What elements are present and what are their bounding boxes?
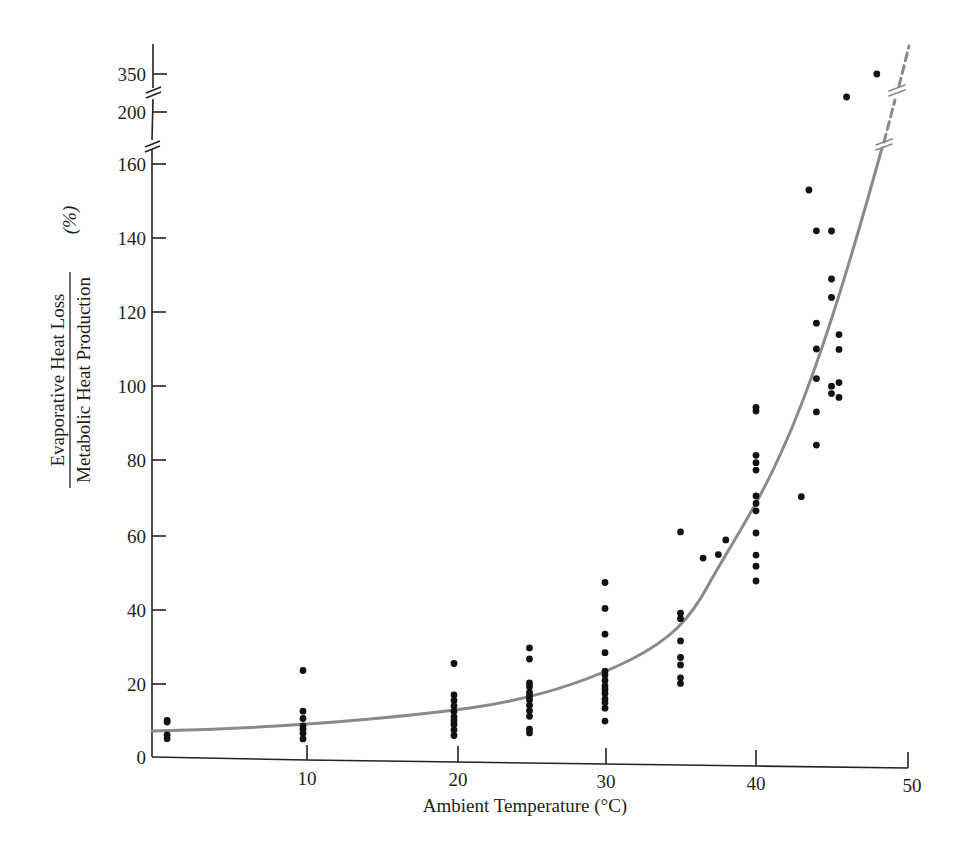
svg-text:100: 100 bbox=[118, 376, 147, 397]
fitted-curve bbox=[152, 46, 909, 731]
data-point bbox=[700, 555, 707, 562]
data-point bbox=[836, 346, 843, 353]
data-point bbox=[677, 654, 684, 661]
data-point bbox=[753, 493, 760, 500]
data-point bbox=[813, 346, 820, 353]
svg-text:80: 80 bbox=[127, 450, 146, 471]
data-point bbox=[722, 537, 729, 544]
data-point bbox=[813, 227, 820, 234]
data-point bbox=[836, 394, 843, 401]
data-point bbox=[677, 615, 684, 622]
data-points bbox=[164, 71, 880, 743]
data-point bbox=[451, 660, 458, 667]
data-point bbox=[798, 493, 805, 500]
data-point bbox=[753, 552, 760, 559]
data-point bbox=[677, 638, 684, 645]
data-point bbox=[602, 579, 609, 586]
svg-text:50: 50 bbox=[903, 775, 922, 796]
data-point bbox=[836, 379, 843, 386]
data-point bbox=[526, 730, 533, 737]
y-axis-unit: (%) bbox=[59, 206, 81, 234]
svg-text:40: 40 bbox=[747, 773, 766, 794]
svg-text:20: 20 bbox=[127, 674, 146, 695]
data-point bbox=[602, 631, 609, 638]
y-tick-labels: 0 20 40 60 80 100 120 140 160 200 350 bbox=[118, 64, 147, 768]
svg-text:0: 0 bbox=[137, 747, 147, 768]
svg-text:10: 10 bbox=[298, 768, 317, 789]
data-point bbox=[300, 715, 307, 722]
data-point bbox=[602, 705, 609, 712]
data-point bbox=[753, 530, 760, 537]
data-point bbox=[300, 667, 307, 674]
data-point bbox=[813, 442, 820, 449]
svg-text:60: 60 bbox=[127, 526, 146, 547]
data-point bbox=[836, 331, 843, 338]
data-point bbox=[300, 708, 307, 715]
data-point bbox=[813, 409, 820, 416]
data-point bbox=[828, 276, 835, 283]
data-point bbox=[753, 452, 760, 459]
svg-text:40: 40 bbox=[127, 600, 146, 621]
data-point bbox=[164, 719, 171, 726]
x-tick-labels: 10 20 30 40 50 bbox=[298, 768, 922, 796]
data-point bbox=[677, 662, 684, 669]
x-axis bbox=[152, 745, 908, 768]
data-point bbox=[753, 459, 760, 466]
data-point bbox=[526, 656, 533, 663]
data-point bbox=[813, 375, 820, 382]
data-point bbox=[526, 645, 533, 652]
data-point bbox=[715, 551, 722, 558]
data-point bbox=[451, 732, 458, 739]
svg-text:140: 140 bbox=[118, 228, 147, 249]
data-point bbox=[602, 718, 609, 725]
data-point bbox=[813, 320, 820, 327]
data-point bbox=[602, 649, 609, 656]
data-point bbox=[753, 578, 760, 585]
data-point bbox=[753, 408, 760, 415]
y-axis-denominator: Metabolic Heat Production bbox=[73, 277, 94, 483]
svg-text:350: 350 bbox=[118, 64, 147, 85]
data-point bbox=[753, 563, 760, 570]
y-axis-numerator: Evaporative Heat Loss bbox=[47, 293, 68, 466]
x-axis-title: Ambient Temperature (°C) bbox=[423, 795, 627, 817]
data-point bbox=[677, 529, 684, 536]
data-point bbox=[677, 680, 684, 687]
y-axis bbox=[145, 44, 161, 757]
data-point bbox=[843, 94, 850, 101]
y-axis-title: Evaporative Heat Loss Metabolic Heat Pro… bbox=[47, 206, 94, 488]
svg-text:20: 20 bbox=[449, 769, 468, 790]
data-point bbox=[806, 187, 813, 194]
data-point bbox=[828, 228, 835, 235]
y-ticks bbox=[152, 74, 167, 684]
data-point bbox=[300, 736, 307, 743]
data-point bbox=[602, 605, 609, 612]
data-point bbox=[753, 507, 760, 514]
svg-text:120: 120 bbox=[118, 302, 147, 323]
data-point bbox=[526, 713, 533, 720]
chart-canvas: 0 20 40 60 80 100 120 140 160 200 350 10… bbox=[0, 0, 966, 858]
data-point bbox=[828, 294, 835, 301]
svg-text:30: 30 bbox=[597, 771, 616, 792]
data-point bbox=[753, 467, 760, 474]
data-point bbox=[873, 71, 880, 78]
data-point bbox=[828, 383, 835, 390]
data-point bbox=[828, 390, 835, 397]
data-point bbox=[753, 500, 760, 507]
svg-text:160: 160 bbox=[118, 154, 147, 175]
data-point bbox=[164, 735, 171, 742]
svg-text:200: 200 bbox=[118, 102, 147, 123]
